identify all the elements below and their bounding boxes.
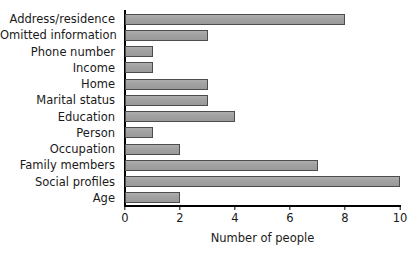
x-axis-tick: 0 <box>121 206 128 225</box>
category-label: Family members <box>0 157 119 173</box>
bar <box>125 127 153 138</box>
tick-mark <box>399 206 400 210</box>
bar <box>125 79 208 90</box>
bar-row <box>125 109 400 125</box>
bar <box>125 95 208 106</box>
bar-rows <box>125 11 400 206</box>
bar <box>125 160 318 171</box>
bar-row <box>125 44 400 60</box>
category-label: Omitted information <box>0 27 119 43</box>
tick-mark <box>234 206 235 210</box>
bar <box>125 30 208 41</box>
bar <box>125 144 180 155</box>
tick-label: 8 <box>341 211 348 225</box>
bar-row <box>125 125 400 141</box>
category-label: Education <box>0 109 119 125</box>
x-axis-tick: 8 <box>341 206 348 225</box>
x-axis-tick: 10 <box>393 206 408 225</box>
x-axis-tick: 2 <box>176 206 183 225</box>
category-axis-labels: Address/residenceOmitted informationPhon… <box>0 11 119 206</box>
x-axis-tick: 4 <box>231 206 238 225</box>
plot-area <box>125 11 400 206</box>
tick-label: 4 <box>231 211 238 225</box>
bar-row <box>125 27 400 43</box>
tick-mark <box>179 206 180 210</box>
category-label: Home <box>0 76 119 92</box>
x-axis-tick: 6 <box>286 206 293 225</box>
tick-mark <box>124 206 125 210</box>
bar <box>125 192 180 203</box>
category-label: Age <box>0 190 119 206</box>
bar <box>125 14 345 25</box>
x-axis-ticks: 0246810 <box>125 206 400 226</box>
tick-mark <box>344 206 345 210</box>
category-label: Social profiles <box>0 174 119 190</box>
bar-chart: Address/residenceOmitted informationPhon… <box>0 0 412 258</box>
bar-row <box>125 190 400 206</box>
category-label: Address/residence <box>0 11 119 27</box>
tick-label: 6 <box>286 211 293 225</box>
tick-label: 0 <box>121 211 128 225</box>
bar-row <box>125 157 400 173</box>
bar <box>125 62 153 73</box>
category-label: Phone number <box>0 44 119 60</box>
tick-label: 10 <box>393 211 408 225</box>
category-label: Income <box>0 60 119 76</box>
bar <box>125 111 235 122</box>
bar <box>125 46 153 57</box>
bar <box>125 176 400 187</box>
bar-row <box>125 11 400 27</box>
category-label: Occupation <box>0 141 119 157</box>
category-label: Marital status <box>0 92 119 108</box>
bar-row <box>125 141 400 157</box>
tick-label: 2 <box>176 211 183 225</box>
bar-row <box>125 76 400 92</box>
bar-row <box>125 92 400 108</box>
bar-row <box>125 60 400 76</box>
x-axis-title: Number of people <box>125 231 400 245</box>
bar-row <box>125 174 400 190</box>
tick-mark <box>289 206 290 210</box>
category-label: Person <box>0 125 119 141</box>
